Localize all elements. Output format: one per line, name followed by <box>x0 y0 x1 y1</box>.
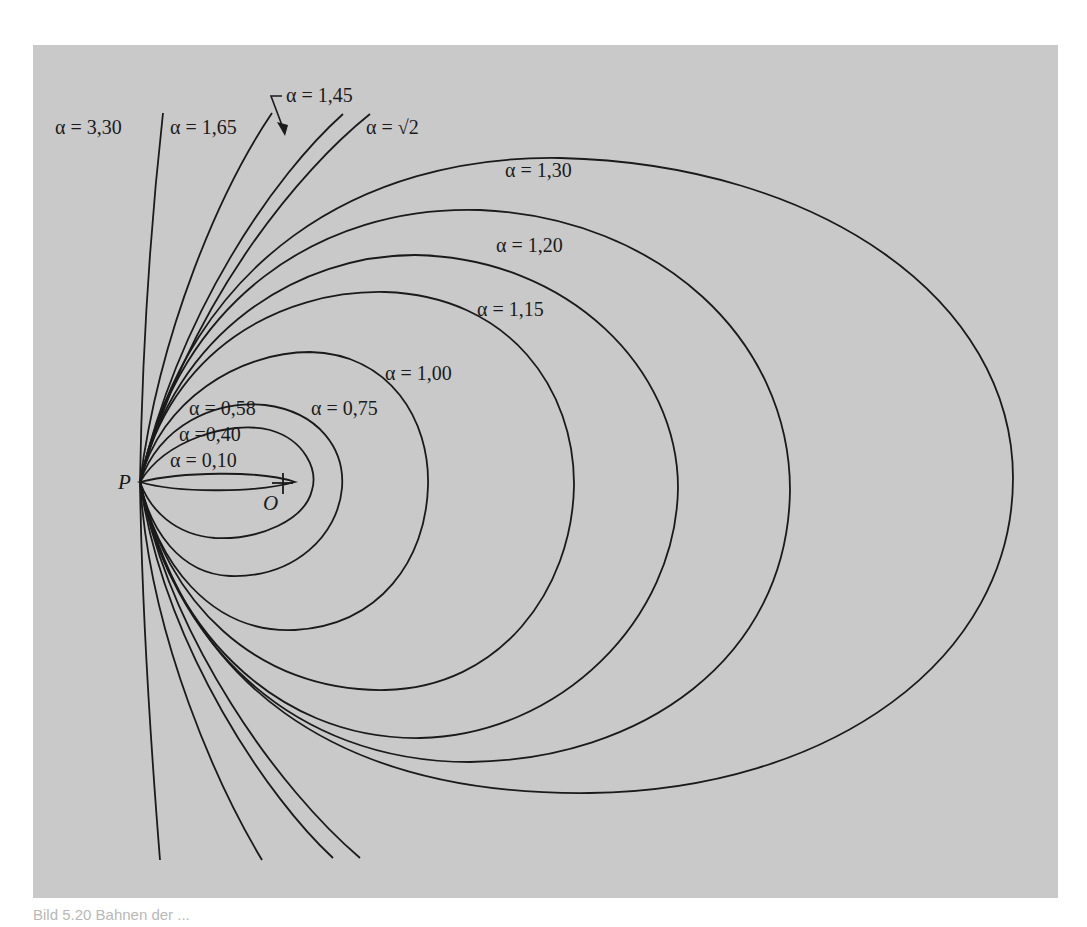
curve-alpha-0-10 <box>140 474 295 491</box>
label-alpha-0-75: α = 0,75 <box>311 397 378 419</box>
label-alpha-sqrt2: α = √2 <box>366 116 419 138</box>
curve-alpha-1-20 <box>140 210 790 762</box>
label-alpha-3-30: α = 3,30 <box>55 116 122 138</box>
label-alpha-1-15: α = 1,15 <box>477 298 544 320</box>
label-alpha-0-40: α =0,40 <box>179 423 241 445</box>
curve-family-diagram: α = 3,30 α = 1,65 α = 1,45 α = √2 α = 1,… <box>0 0 1087 927</box>
label-alpha-0-10: α = 0,10 <box>170 449 237 471</box>
label-alpha-1-45: α = 1,45 <box>286 84 353 106</box>
figure-caption: Bild 5.20 Bahnen der ... <box>33 906 190 923</box>
curve-alpha-sqrt2 <box>140 114 370 858</box>
label-point-p: P <box>117 470 131 494</box>
curve-alpha-1-15 <box>140 255 678 738</box>
arrowhead-icon <box>277 122 288 136</box>
label-alpha-1-65: α = 1,65 <box>170 116 237 138</box>
label-alpha-0-58: α = 0,58 <box>189 397 256 419</box>
label-point-o: O <box>263 491 278 515</box>
curve-alpha-0-75 <box>140 352 428 630</box>
label-alpha-1-30: α = 1,30 <box>505 159 572 181</box>
label-alpha-1-00: α = 1,00 <box>385 362 452 384</box>
label-alpha-1-20: α = 1,20 <box>496 234 563 256</box>
curve-alpha-1-30 <box>140 158 1013 793</box>
